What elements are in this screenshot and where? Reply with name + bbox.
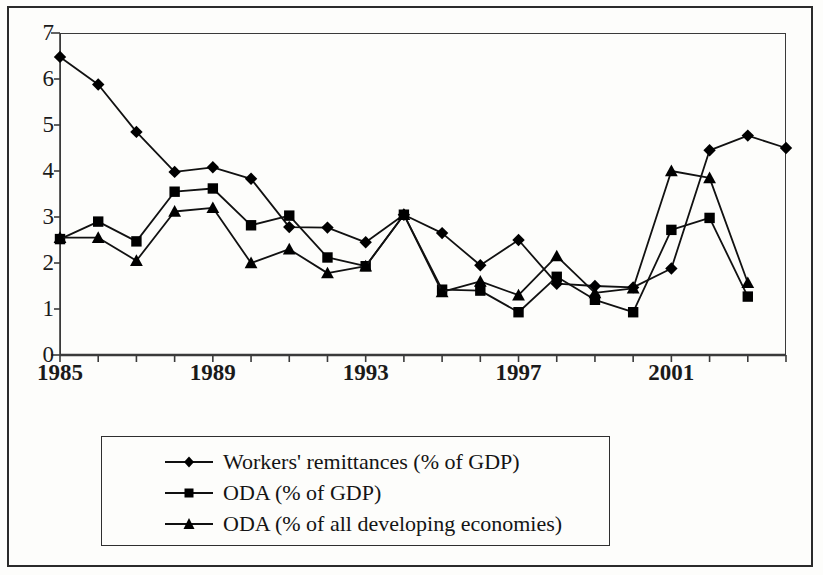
x-axis-tick-label: 1993 xyxy=(326,360,406,386)
x-axis-tick-labels: 19851989199319972001 xyxy=(0,0,823,420)
legend-item-workers-remittances: Workers' remittances (% of GDP) xyxy=(102,446,609,477)
legend-marker-square-icon xyxy=(164,483,214,503)
legend-label-oda-developing: ODA (% of all developing economies) xyxy=(223,512,562,536)
x-axis-tick-label: 1985 xyxy=(20,360,100,386)
legend-label-oda-gdp: ODA (% of GDP) xyxy=(223,481,381,505)
x-axis-tick-label: 1997 xyxy=(479,360,559,386)
x-axis-tick-label: 2001 xyxy=(631,360,711,386)
figure-container: 01234567 19851989199319972001 Workers' r… xyxy=(0,0,823,575)
x-axis-tick-label: 1989 xyxy=(173,360,253,386)
legend-marker-diamond-icon xyxy=(164,452,214,472)
legend-marker-triangle-icon xyxy=(164,514,214,534)
legend-item-oda-developing: ODA (% of all developing economies) xyxy=(102,508,609,539)
legend-label-workers-remittances: Workers' remittances (% of GDP) xyxy=(223,450,520,474)
legend-item-oda-gdp: ODA (% of GDP) xyxy=(102,477,609,508)
chart-legend: Workers' remittances (% of GDP) ODA (% o… xyxy=(101,436,610,546)
